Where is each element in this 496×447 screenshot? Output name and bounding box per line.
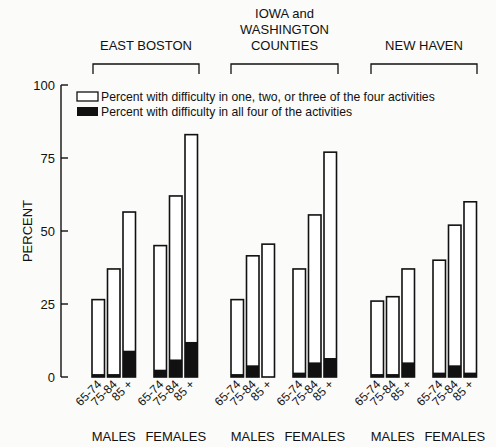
bar-total: [247, 256, 260, 377]
panel-iowa-and-washington-counties: IOWA andWASHINGTONCOUNTIES65-7475-8485 +…: [212, 6, 346, 444]
bar-all-four: [464, 373, 477, 377]
legend: Percent with difficulty in one, two, or …: [77, 90, 435, 119]
bar-total: [185, 135, 198, 377]
panel-bracket: [93, 64, 199, 74]
bar-total: [108, 269, 121, 377]
bar-all-four: [433, 373, 446, 377]
legend-swatch-partial: [77, 92, 98, 101]
bar-total: [387, 297, 400, 377]
sex-label: FEMALES: [284, 429, 345, 444]
bar-all-four: [247, 365, 260, 377]
panels: EAST BOSTON65-7475-8485 +MALES65-7475-84…: [73, 6, 486, 444]
bar-all-four: [371, 374, 384, 377]
bar-all-four: [387, 374, 400, 377]
panel-title: IOWA and: [255, 6, 314, 21]
panel-title: COUNTIES: [251, 38, 319, 53]
sex-label: MALES: [231, 429, 275, 444]
y-axis: 0255075100: [33, 78, 68, 385]
bar-all-four: [293, 373, 306, 377]
sex-label: FEMALES: [145, 429, 206, 444]
panel-title: NEW HAVEN: [385, 38, 463, 53]
bar-all-four: [108, 374, 121, 377]
bar-total: [449, 225, 462, 377]
bar-all-four: [309, 362, 322, 377]
sex-label: MALES: [92, 429, 136, 444]
bar-total: [262, 244, 275, 377]
panel-bracket: [231, 64, 338, 74]
legend-label-partial: Percent with difficulty in one, two, or …: [101, 90, 435, 104]
bar-all-four: [231, 374, 244, 377]
bar-all-four: [402, 362, 415, 377]
legend-label-all-four: Percent with difficulty in all four of t…: [101, 105, 352, 119]
sex-label: FEMALES: [424, 429, 485, 444]
panel-title: EAST BOSTON: [100, 38, 192, 53]
bar-total: [231, 300, 244, 377]
y-tick-label: 25: [41, 297, 55, 312]
y-tick-label: 75: [41, 151, 55, 166]
bar-total: [402, 269, 415, 377]
bar-total: [371, 301, 384, 377]
y-tick-label: 100: [33, 78, 55, 93]
bar-total: [170, 196, 183, 377]
bar-total: [293, 269, 306, 377]
bar-all-four: [449, 365, 462, 377]
bar-total: [154, 246, 167, 377]
sex-label: MALES: [371, 429, 415, 444]
bar-all-four: [170, 359, 183, 377]
panel-bracket: [371, 64, 477, 74]
bar-total: [92, 300, 105, 377]
bar-total: [309, 215, 322, 377]
bar-total: [464, 202, 477, 377]
bar-all-four: [154, 370, 167, 377]
bar-all-four: [185, 342, 198, 377]
bar-all-four: [123, 351, 136, 377]
chart: 0255075100 PERCENT Percent with difficul…: [0, 0, 496, 447]
bar-all-four: [92, 374, 105, 377]
y-tick-label: 0: [48, 370, 55, 385]
y-axis-label: PERCENT: [20, 200, 35, 262]
panel-title: WASHINGTON: [240, 22, 329, 37]
y-tick-label: 50: [41, 224, 55, 239]
bar-total: [433, 260, 446, 377]
bar-total: [324, 152, 337, 377]
bar-all-four: [324, 358, 337, 377]
legend-swatch-all-four: [77, 107, 98, 116]
